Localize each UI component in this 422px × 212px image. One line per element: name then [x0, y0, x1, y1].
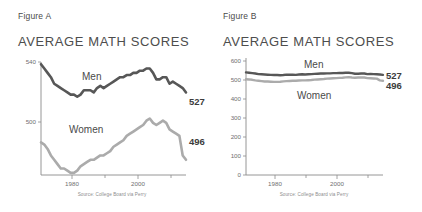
figure-b-men-label: Men	[304, 59, 323, 70]
figure-a-women-end-value: 496	[189, 136, 205, 147]
figure-b-source-note: Source: College Board via Perry	[280, 192, 349, 197]
figure-b-women-line	[246, 77, 383, 82]
figure-b-panel: Figure B AVERAGE MATH SCORES 600 500 400…	[211, 0, 422, 212]
figure-b-xlabel-2000: 2000	[330, 180, 344, 187]
figure-b-women-label: Women	[297, 90, 331, 101]
figure-b-ylabel-100: 100	[231, 152, 242, 159]
figure-a-ylabel-500: 500	[26, 118, 37, 125]
figure-b-ylabel-500: 500	[231, 76, 242, 83]
figure-a-source-note: Source: College Board via Perry	[78, 192, 147, 197]
figure-b-ylabel-400: 400	[231, 95, 242, 102]
figure-a-panel: Figure A AVERAGE MATH SCORES 540 500 198…	[0, 0, 211, 212]
figure-b-men-line	[246, 72, 383, 75]
figure-a-xlabel-2000: 2000	[131, 180, 145, 187]
figure-a-xlabel-1980: 1980	[65, 180, 79, 187]
figure-comparison-page: Figure A AVERAGE MATH SCORES 540 500 198…	[0, 0, 422, 212]
figure-a-ylabel-540: 540	[26, 58, 37, 65]
figure-b-women-end-value: 496	[386, 80, 402, 91]
figure-b-ylabel-300: 300	[231, 114, 242, 121]
figure-a-men-end-value: 527	[189, 96, 205, 107]
figure-a-chart: 540 500 1980 2000 Men Women 527 496 Sour…	[0, 0, 211, 212]
figure-a-men-line	[41, 64, 186, 97]
figure-b-ylabel-600: 600	[231, 57, 242, 64]
figure-b-xlabel-1980: 1980	[268, 180, 282, 187]
figure-a-women-label: Women	[69, 124, 103, 135]
figure-a-men-label: Men	[82, 71, 101, 82]
figure-b-ylabel-0: 0	[238, 171, 242, 178]
figure-b-chart: 600 500 400 300 200 100 0 1980 2000 Men …	[211, 0, 422, 212]
figure-a-women-line	[41, 119, 186, 173]
figure-b-ylabel-200: 200	[231, 133, 242, 140]
